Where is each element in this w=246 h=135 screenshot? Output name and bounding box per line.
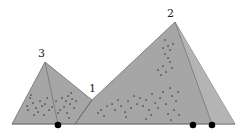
scatter-point: [173, 109, 174, 110]
scatter-point: [30, 94, 31, 95]
scatter-point: [35, 107, 36, 108]
scatter-point: [175, 100, 176, 101]
scatter-point: [43, 114, 44, 115]
scatter-point: [71, 98, 72, 99]
scatter-point: [41, 105, 42, 106]
scatter-point: [120, 105, 121, 106]
scatter-point: [154, 102, 155, 103]
scatter-point: [169, 61, 170, 62]
scatter-point: [57, 112, 58, 113]
scatter-point: [61, 97, 62, 98]
scatter-point: [114, 109, 115, 110]
scatter-point: [37, 111, 38, 112]
scatter-point: [172, 43, 173, 44]
scatter-point: [130, 107, 131, 108]
scatter-point: [125, 116, 126, 117]
triangles-group: [12, 22, 235, 124]
vertex-label-2: 2: [167, 7, 174, 20]
scatter-point: [136, 103, 137, 104]
scatter-point: [171, 67, 172, 68]
scatter-point: [100, 109, 101, 110]
scatter-point: [157, 69, 158, 70]
scatter-point: [159, 97, 160, 98]
scatter-point: [111, 103, 112, 104]
scatter-point: [55, 100, 56, 101]
scatter-point: [39, 100, 40, 101]
scatter-point: [66, 112, 67, 113]
vertex-label-1: 1: [89, 82, 96, 95]
scatter-point: [169, 87, 170, 88]
scatter-point: [165, 71, 166, 72]
scatter-point: [29, 97, 30, 98]
scatter-point: [46, 97, 47, 98]
scatter-point: [162, 47, 163, 48]
base-marker-dot: [209, 122, 216, 129]
scatter-point: [167, 45, 168, 46]
triangle-3: [12, 62, 92, 124]
scatter-point: [67, 95, 68, 96]
scatter-point: [157, 107, 158, 108]
scatter-point: [171, 95, 172, 96]
scatter-point: [59, 109, 60, 110]
scatter-point: [33, 114, 34, 115]
scatter-point: [127, 100, 128, 101]
scatter-point: [75, 100, 76, 101]
scatter-point: [165, 103, 166, 104]
scatter-point: [68, 117, 69, 118]
scatter-point: [142, 105, 143, 106]
scatter-point: [148, 109, 149, 110]
scatter-point: [69, 103, 70, 104]
scatter-point: [27, 109, 28, 110]
scatter-point: [73, 107, 74, 108]
base-marker-dot: [55, 122, 62, 129]
scatter-point: [160, 74, 161, 75]
scatter-point: [63, 106, 64, 107]
scatter-point: [106, 105, 107, 106]
scatter-point: [164, 53, 165, 54]
pyramid-diagram: 3 1 2: [0, 0, 246, 135]
scatter-point: [167, 113, 168, 114]
scatter-point: [162, 91, 163, 92]
vertex-label-3: 3: [38, 47, 45, 60]
scatter-point: [139, 97, 140, 98]
scatter-point: [169, 49, 170, 50]
scatter-point: [48, 109, 49, 110]
scatter-point: [70, 92, 71, 93]
scatter-point: [150, 114, 151, 115]
scatter-point: [145, 118, 146, 119]
scatter-point: [162, 65, 163, 66]
scatter-point: [133, 95, 134, 96]
scatter-point: [145, 99, 146, 100]
scatter-point: [26, 105, 27, 106]
scatter-point: [178, 114, 179, 115]
scatter-point: [177, 91, 178, 92]
scatter-point: [97, 112, 98, 113]
scatter-point: [167, 57, 168, 58]
scatter-point: [32, 102, 33, 103]
scatter-point: [65, 100, 66, 101]
diagram-canvas: 3 1 2: [0, 0, 246, 135]
base-marker-dot: [190, 122, 197, 129]
scatter-point: [103, 115, 104, 116]
scatter-point: [124, 111, 125, 112]
scatter-point: [151, 93, 152, 94]
scatter-point: [51, 106, 52, 107]
scatter-point: [164, 39, 165, 40]
scatter-point: [117, 99, 118, 100]
scatter-point: [170, 119, 171, 120]
scatter-point: [44, 103, 45, 104]
